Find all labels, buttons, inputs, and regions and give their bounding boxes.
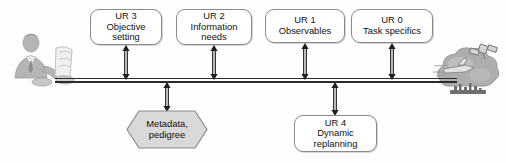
- node-ur3[interactable]: UR 3 Objective setting: [90, 9, 162, 45]
- connector-ur1: [299, 43, 311, 80]
- node-ur2[interactable]: UR 2 Information needs: [176, 9, 252, 45]
- connector-ur2: [208, 45, 220, 80]
- connector-ur0: [386, 43, 398, 80]
- sensors-illustration: [432, 42, 504, 104]
- diagram-canvas: UR 3 Objective setting UR 2 Information …: [0, 0, 506, 163]
- node-ur3-line3: setting: [112, 32, 140, 43]
- node-ur0-line2: Task specifics: [363, 26, 421, 37]
- node-metadata[interactable]: Metadata, pedigree: [126, 110, 208, 149]
- node-ur2-line3: needs: [201, 32, 227, 43]
- connector-ur3: [120, 45, 132, 80]
- bus-rail-bottom: [55, 81, 457, 82]
- node-ur1[interactable]: UR 1 Observables: [265, 9, 345, 43]
- connector-ur4: [329, 82, 341, 116]
- node-metadata-line2: pedigree: [149, 130, 186, 141]
- node-metadata-line1: Metadata,: [146, 119, 188, 130]
- node-ur4-line3: replanning: [314, 139, 358, 150]
- node-ur4[interactable]: UR 4 Dynamic replanning: [294, 115, 377, 152]
- node-ur1-line2: Observables: [279, 26, 332, 37]
- connector-metadata: [161, 82, 173, 112]
- node-ur0[interactable]: UR 0 Task specifics: [351, 9, 433, 43]
